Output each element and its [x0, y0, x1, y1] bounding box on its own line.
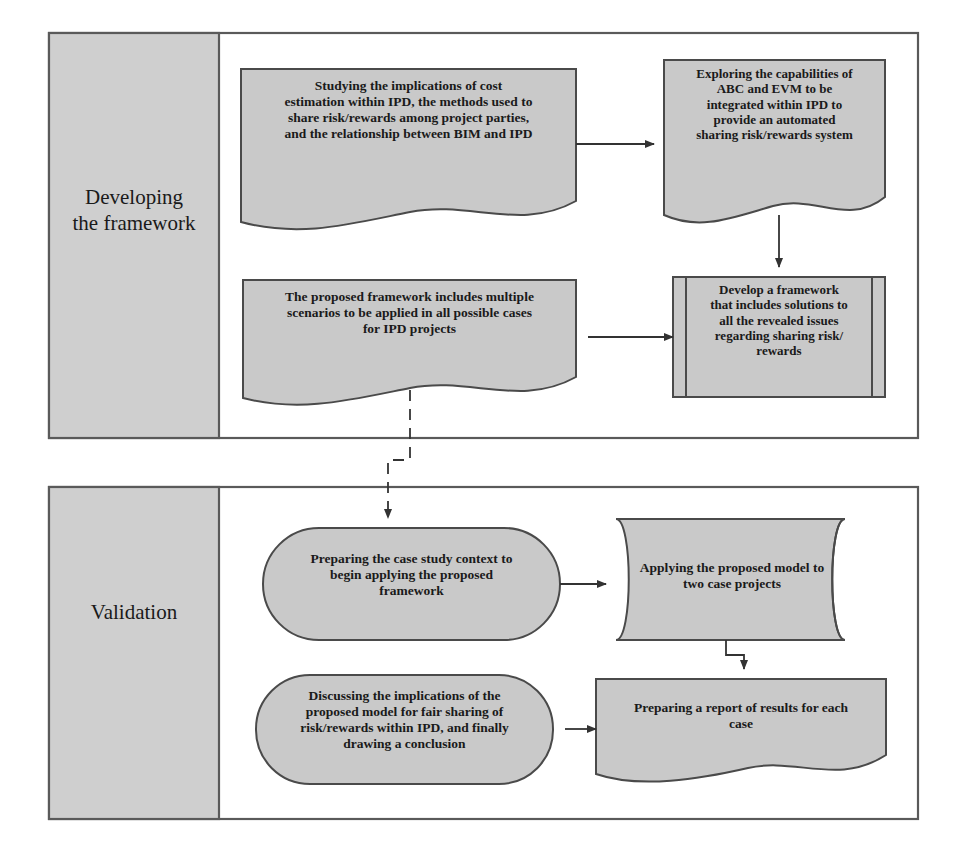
diagram-canvas [0, 0, 965, 858]
node-preparing-report[interactable] [596, 679, 886, 782]
node-proposed-framework[interactable] [243, 280, 576, 405]
node-develop-framework[interactable] [673, 277, 885, 397]
phase-label-panel-validation [49, 487, 219, 819]
node-discussing[interactable] [256, 675, 553, 784]
node-studying[interactable] [241, 69, 576, 229]
node-applying-model[interactable] [616, 519, 845, 640]
node-exploring[interactable] [664, 60, 885, 222]
phase-label-panel-developing [49, 33, 219, 438]
node-preparing-context[interactable] [263, 528, 560, 640]
flowchart-diagram: Developing the framework Validation Stud… [0, 0, 965, 858]
